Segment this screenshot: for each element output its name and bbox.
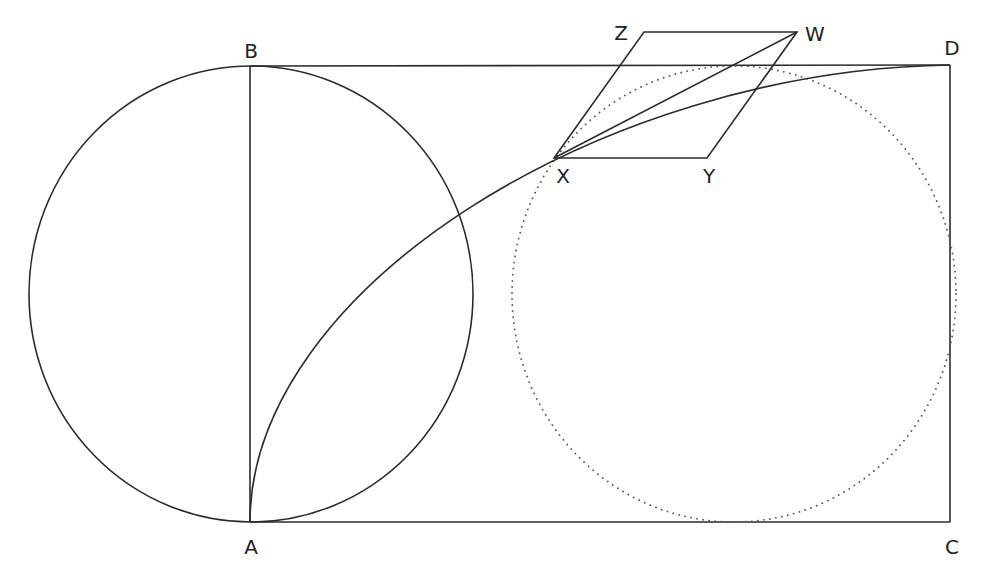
label-Y: Y <box>702 164 716 188</box>
segment-XW <box>554 32 797 158</box>
segment-BD <box>250 65 950 66</box>
geometry-diagram: B A C D Z W X Y <box>0 0 993 573</box>
label-B: B <box>244 39 258 63</box>
label-A: A <box>244 535 258 559</box>
label-D: D <box>944 36 959 60</box>
label-C: C <box>945 535 959 559</box>
label-Z: Z <box>614 21 628 45</box>
dotted-circle <box>512 66 956 522</box>
label-W: W <box>805 22 825 46</box>
circle-AB <box>29 66 473 522</box>
label-X: X <box>556 164 570 188</box>
